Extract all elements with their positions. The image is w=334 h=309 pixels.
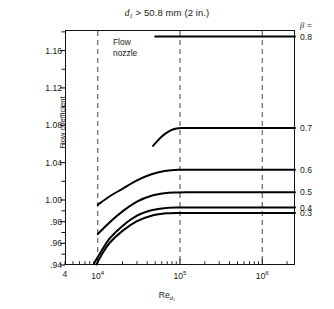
flow-nozzle-annotation: Flow nozzle — [113, 37, 137, 59]
data-curve-beta-0.4 — [94, 208, 295, 264]
data-curve-beta-0.6 — [98, 170, 295, 205]
data-curve-beta-0.3 — [96, 213, 295, 264]
series-label-beta-0.7: 0.7 — [300, 124, 312, 133]
series-label-beta-0.6: 0.6 — [300, 165, 312, 174]
beta-legend-header: β = — [300, 20, 312, 30]
beta-equals-sign: = — [307, 20, 312, 30]
flow-nozzle-line2: nozzle — [113, 48, 137, 59]
flow-coefficient-chart: d1 > 50.8 mm (2 in.) Flow coefficient Ko… — [0, 0, 334, 309]
series-label-beta-0.5: 0.5 — [300, 188, 312, 197]
beta-symbol: β — [300, 20, 304, 30]
data-curve-beta-0.7 — [153, 128, 295, 146]
flow-nozzle-line1: Flow — [113, 37, 137, 48]
series-label-beta-0.3: 0.3 — [300, 209, 312, 218]
series-label-beta-0.8: 0.8 — [300, 32, 312, 41]
plot-graphics-layer — [0, 0, 334, 309]
